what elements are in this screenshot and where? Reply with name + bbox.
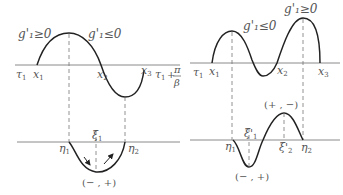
right-x1-label: x1 xyxy=(209,65,220,79)
left-x2-label: x2 xyxy=(97,68,108,82)
right-panel: g'₁≤0 g'₁≥0 τ1 x1 x2 x3 η1 ξ'1 ξ'2 η2 (+… xyxy=(190,2,340,182)
right-label-g-pos: g'₁≥0 xyxy=(284,2,318,16)
right-xi1-label: ξ'1 xyxy=(244,127,258,141)
right-sign-label-top: (+ , −) xyxy=(264,99,298,110)
right-x2-label: x2 xyxy=(277,64,288,78)
right-eta2-label: η2 xyxy=(301,141,312,155)
left-x3-label: x3 xyxy=(141,64,152,78)
right-xi2-label: ξ'2 xyxy=(279,141,293,155)
left-eta1-label: η1 xyxy=(59,142,70,156)
right-label-g-neg: g'₁≤0 xyxy=(243,19,277,33)
left-xi1-label: ξ1 xyxy=(92,129,103,143)
right-x3-label: x3 xyxy=(318,65,329,79)
left-eta2-label: η2 xyxy=(128,142,139,156)
right-sign-label-bottom: (− , +) xyxy=(235,171,269,182)
left-panel: g'₁≥0 g'₁≤0 τ1 x1 x2 x3 τ1 + π β η1 ξ1 η… xyxy=(15,27,181,188)
svg-text:τ1: τ1 xyxy=(155,68,166,82)
left-label-g-pos: g'₁≥0 xyxy=(18,27,52,41)
svg-text:π: π xyxy=(173,64,181,75)
left-arrow-down-icon xyxy=(84,157,90,165)
left-arrow-up-icon xyxy=(104,154,113,164)
left-end-label: τ1 + π β xyxy=(155,64,181,88)
left-x1-label: x1 xyxy=(33,68,44,82)
left-tau1-label: τ1 xyxy=(16,68,27,82)
left-lower-curve xyxy=(69,142,125,172)
left-sign-label: (− , +) xyxy=(82,177,116,188)
svg-text:β: β xyxy=(173,77,180,88)
left-label-g-neg: g'₁≤0 xyxy=(88,27,122,41)
right-tau1-label: τ1 xyxy=(193,66,204,80)
diagram-canvas: g'₁≥0 g'₁≤0 τ1 x1 x2 x3 τ1 + π β η1 ξ1 η… xyxy=(0,0,343,195)
